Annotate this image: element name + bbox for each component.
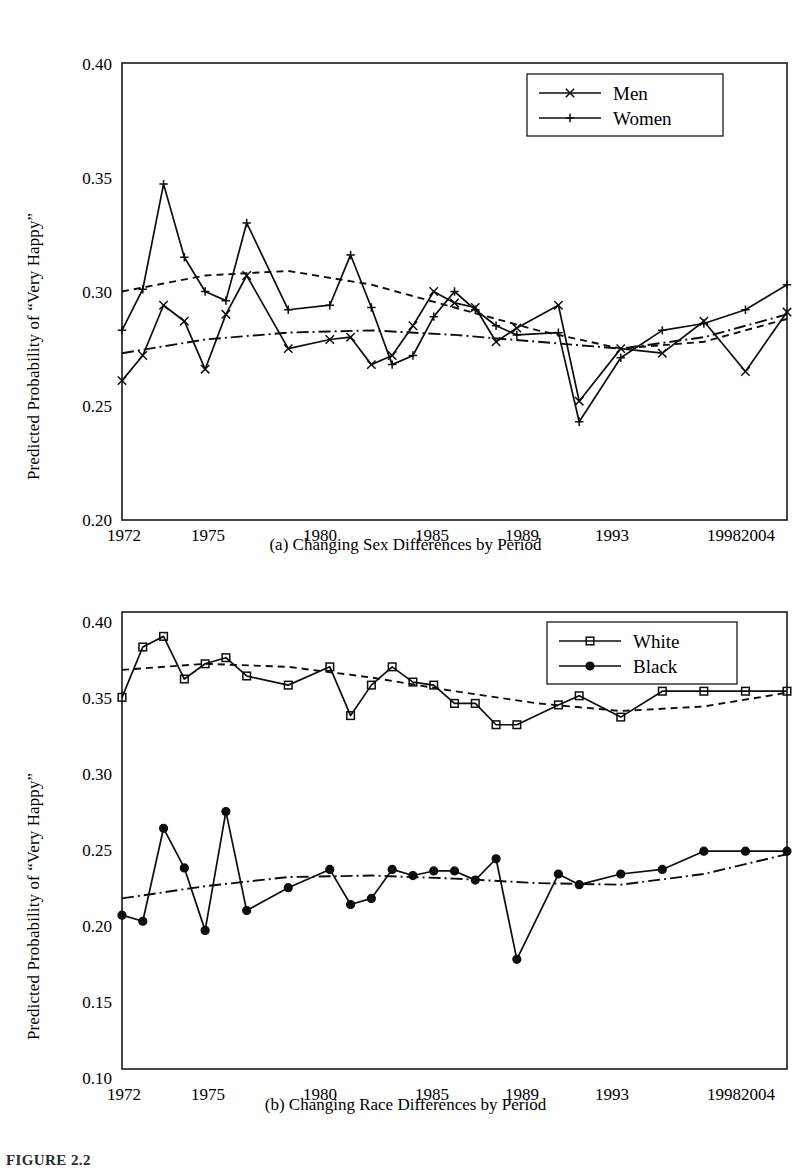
legend-label: White [633,631,679,652]
data-point-+ [346,251,354,259]
data-point-+ [388,360,396,368]
data-point-x [409,322,417,330]
data-point-filled-circle [326,865,334,873]
data-point-filled-circle [284,884,292,892]
chart-svg-b: WhiteBlack [0,580,811,1100]
chart-caption-b: (b) Changing Race Differences by Period [0,1095,811,1115]
data-point-filled-circle [471,876,479,884]
data-point-filled-circle [451,867,459,875]
data-point-+ [180,253,188,261]
ytick-b-1: 0.35 [50,690,112,707]
data-point-x [139,351,147,359]
data-point-+ [284,306,292,314]
data-point-+ [242,219,250,227]
data-point-+ [222,296,230,304]
ytick-b-2: 0.30 [50,766,112,783]
data-point-+ [201,287,209,295]
data-point-filled-circle [492,855,500,863]
data-point-filled-circle [513,955,521,963]
trend-line [122,854,787,898]
ytick-b-0: 0.40 [50,614,112,631]
data-point-+ [326,301,334,309]
trend-line [122,271,787,349]
data-point-filled-circle [139,917,147,925]
chart-svg-a: MenWomen [0,22,811,542]
chart-panel-b: WhiteBlack [0,580,811,1140]
ytick-a-0: 0.40 [50,56,112,73]
legend-label: Black [633,656,678,677]
chart-legend: WhiteBlack [547,622,737,684]
ytick-a-3: 0.25 [50,398,112,415]
data-point-filled-circle [430,867,438,875]
data-point-filled-circle [367,894,375,902]
y-axis-label-b: Predicted Probability of “Very Happy” [24,773,44,1040]
data-point-filled-circle [741,847,749,855]
ytick-a-1: 0.35 [50,170,112,187]
data-point-filled-circle [586,662,594,670]
data-point-filled-circle [347,900,355,908]
data-point-filled-circle [700,847,708,855]
data-point-filled-circle [388,865,396,873]
data-point-filled-circle [575,881,583,889]
data-point-filled-circle [554,870,562,878]
y-axis-label-a: Predicted Probability of “Very Happy” [24,213,44,480]
data-point-+ [367,303,375,311]
data-point-x [741,367,749,375]
data-point-+ [783,280,791,288]
data-point-filled-circle [118,911,126,919]
data-point-x [201,365,209,373]
ytick-b-5: 0.15 [50,994,112,1011]
data-point-filled-circle [783,847,791,855]
data-point-+ [575,418,583,426]
data-point-filled-circle [180,864,188,872]
data-series-line [122,812,787,960]
chart-caption-a: (a) Changing Sex Differences by Period [0,535,811,555]
data-point-x [159,301,167,309]
chart-legend: MenWomen [527,74,723,136]
data-point-x [180,317,188,325]
ytick-b-6: 0.10 [50,1070,112,1087]
data-point-filled-circle [243,907,251,915]
data-point-x [430,287,438,295]
data-point-+ [700,319,708,327]
data-point-x [222,310,230,318]
data-point-+ [741,306,749,314]
legend-label: Men [613,83,648,104]
data-point-filled-circle [617,870,625,878]
data-point-+ [409,351,417,359]
plot-area-a: MenWomen [0,22,811,542]
figure-container: MenWomen 0.40 0.35 0.30 0.25 0.20 1972 1… [0,0,811,1170]
legend-label: Women [613,108,672,129]
ytick-b-4: 0.20 [50,918,112,935]
data-point-filled-circle [201,926,209,934]
figure-number-note: FIGURE 2.2 [6,1152,91,1170]
ytick-b-3: 0.25 [50,842,112,859]
data-point-filled-circle [409,872,417,880]
plot-area-b: WhiteBlack [0,580,811,1100]
data-point-filled-circle [658,865,666,873]
data-point-+ [118,326,126,334]
ytick-a-2: 0.30 [50,284,112,301]
data-point-x [367,360,375,368]
data-point-+ [159,180,167,188]
chart-panel-a: MenWomen [0,22,811,582]
data-point-filled-circle [222,808,230,816]
data-point-filled-circle [160,824,168,832]
